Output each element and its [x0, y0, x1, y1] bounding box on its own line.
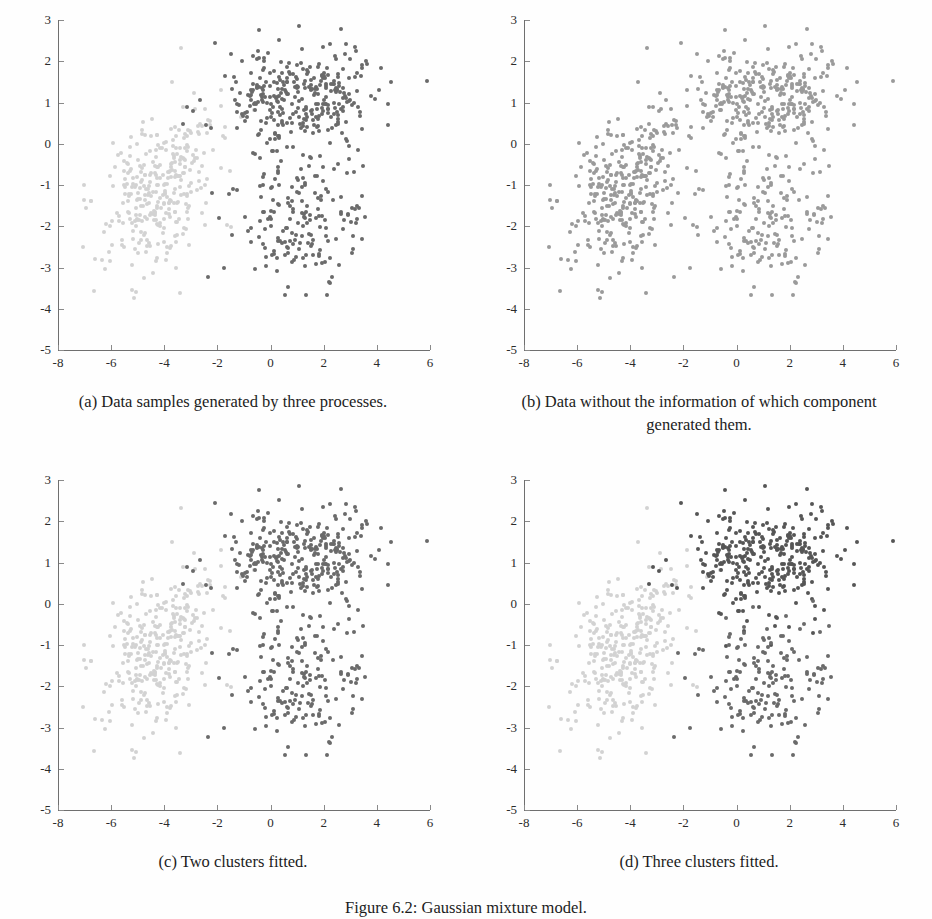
data-point — [666, 624, 670, 628]
data-point — [151, 650, 155, 654]
data-point — [258, 536, 262, 540]
y-tick-a — [59, 20, 64, 21]
data-point — [766, 234, 770, 238]
data-point — [767, 636, 771, 640]
y-tick-label-b: -3 — [506, 260, 517, 276]
data-point — [295, 63, 299, 67]
data-point — [658, 91, 662, 95]
data-point — [820, 49, 824, 53]
data-point — [194, 608, 198, 612]
data-point — [773, 545, 777, 549]
x-tick-a — [111, 345, 112, 350]
data-point — [313, 174, 317, 178]
data-point — [142, 736, 146, 740]
data-point — [600, 666, 604, 670]
data-point — [744, 573, 748, 577]
data-point — [276, 100, 280, 104]
data-point — [93, 717, 97, 721]
data-point — [768, 215, 772, 219]
data-point — [644, 645, 648, 649]
data-point — [175, 220, 179, 224]
data-point — [792, 650, 796, 654]
data-point — [771, 532, 775, 536]
data-point — [360, 523, 364, 527]
y-tick-label-d: 0 — [511, 596, 518, 612]
data-point — [700, 540, 704, 544]
x-tick-label-c: -8 — [53, 815, 64, 831]
data-point — [301, 636, 305, 640]
x-tick-label-a: -8 — [53, 355, 64, 371]
data-point — [784, 685, 788, 689]
data-point — [604, 213, 608, 217]
data-point — [672, 275, 676, 279]
x-tick-label-d: 4 — [840, 815, 847, 831]
y-tick-label-b: 2 — [511, 53, 518, 69]
data-point — [548, 658, 552, 662]
data-point — [663, 170, 667, 174]
data-point — [709, 675, 713, 679]
data-point — [792, 190, 796, 194]
data-point — [161, 173, 165, 177]
data-point — [693, 652, 697, 656]
data-point — [794, 42, 798, 46]
y-tick-label-c: 2 — [45, 513, 52, 529]
data-point — [791, 293, 795, 297]
data-point — [165, 642, 169, 646]
data-point — [789, 678, 793, 682]
data-point — [784, 154, 788, 158]
data-point — [803, 723, 807, 727]
data-point — [603, 241, 607, 245]
data-point — [734, 215, 738, 219]
data-point — [743, 643, 747, 647]
data-point — [291, 242, 295, 246]
data-point — [807, 227, 811, 231]
data-point — [347, 617, 351, 621]
y-tick-label-c: -2 — [40, 678, 51, 694]
data-point — [723, 28, 727, 32]
data-point — [651, 565, 655, 569]
data-point — [756, 645, 760, 649]
data-point — [777, 131, 781, 135]
data-point — [303, 264, 307, 268]
y-tick-label-c: -4 — [40, 761, 51, 777]
x-tick-label-c: -4 — [159, 815, 170, 831]
data-point — [640, 700, 644, 704]
data-point — [324, 546, 328, 550]
data-point — [373, 557, 377, 561]
data-point — [587, 661, 591, 665]
data-point — [331, 658, 335, 662]
data-point — [334, 697, 338, 701]
data-point — [599, 645, 603, 649]
data-point — [628, 226, 632, 230]
data-point — [325, 526, 329, 530]
data-point — [770, 713, 774, 717]
data-point — [182, 226, 186, 230]
data-point — [672, 735, 676, 739]
data-point — [351, 694, 355, 698]
data-point — [291, 670, 295, 674]
data-point — [291, 145, 295, 149]
data-point — [634, 629, 638, 633]
data-point — [140, 219, 144, 223]
data-point — [660, 148, 664, 152]
data-point — [607, 120, 611, 124]
data-point — [648, 686, 652, 690]
data-point — [790, 542, 794, 546]
data-point — [336, 162, 340, 166]
data-point — [240, 519, 244, 523]
data-point — [577, 141, 581, 145]
data-point — [689, 585, 693, 589]
data-point — [268, 215, 272, 219]
data-point — [300, 507, 304, 511]
data-point — [268, 84, 272, 88]
data-point — [547, 705, 551, 709]
data-point — [128, 145, 132, 149]
data-point — [798, 627, 802, 631]
data-point — [669, 683, 673, 687]
data-point — [347, 92, 351, 96]
x-tick-label-a: 6 — [427, 355, 434, 371]
data-point — [627, 691, 631, 695]
data-point — [653, 703, 657, 707]
data-point — [829, 215, 833, 219]
data-point — [725, 195, 729, 199]
